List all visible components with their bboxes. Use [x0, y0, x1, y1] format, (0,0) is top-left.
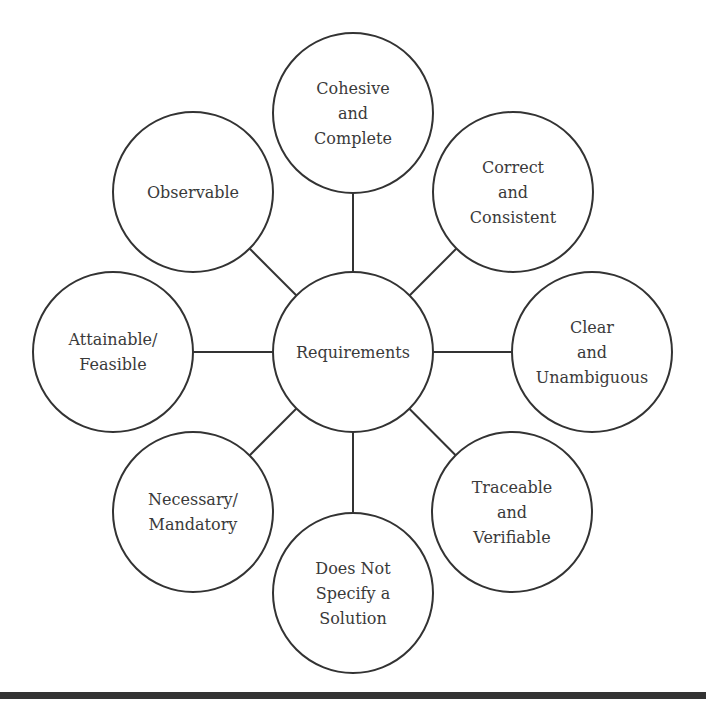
label-line: and — [438, 180, 588, 205]
label-line: Verifiable — [437, 525, 587, 550]
bottom-rule — [0, 692, 706, 699]
center-node-label: Requirements — [278, 340, 428, 365]
label-line: Observable — [118, 180, 268, 205]
label-line: Traceable — [437, 475, 587, 500]
label-line: Correct — [438, 155, 588, 180]
label-line: Specify a — [278, 581, 428, 606]
label-line: Consistent — [438, 205, 588, 230]
label-line: and — [278, 101, 428, 126]
node-label-cohesive-complete: CohesiveandComplete — [278, 76, 428, 151]
connector-traceable-verifiable — [409, 409, 455, 456]
label-line: Requirements — [278, 340, 428, 365]
label-line: Necessary/ — [118, 487, 268, 512]
node-label-attainable-feasible: Attainable/Feasible — [38, 327, 188, 377]
node-label-does-not-specify-solution: Does NotSpecify aSolution — [278, 556, 428, 631]
connector-necessary-mandatory — [250, 409, 297, 456]
label-line: Does Not — [278, 556, 428, 581]
label-line: Solution — [278, 606, 428, 631]
label-line: Unambiguous — [517, 365, 667, 390]
node-label-traceable-verifiable: TraceableandVerifiable — [437, 475, 587, 550]
connector-observable — [250, 249, 297, 296]
label-line: and — [517, 340, 667, 365]
label-line: Mandatory — [118, 512, 268, 537]
label-line: Attainable/ — [38, 327, 188, 352]
label-line: Clear — [517, 315, 667, 340]
label-line: Cohesive — [278, 76, 428, 101]
node-label-correct-consistent: CorrectandConsistent — [438, 155, 588, 230]
connector-correct-consistent — [410, 249, 457, 296]
node-label-clear-unambiguous: ClearandUnambiguous — [517, 315, 667, 390]
label-line: Feasible — [38, 352, 188, 377]
node-label-observable: Observable — [118, 180, 268, 205]
label-line: Complete — [278, 126, 428, 151]
label-line: and — [437, 500, 587, 525]
node-label-necessary-mandatory: Necessary/Mandatory — [118, 487, 268, 537]
